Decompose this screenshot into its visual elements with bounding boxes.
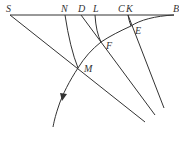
label-S: S [6, 3, 11, 14]
label-F: F [105, 40, 113, 51]
label-C: C [118, 3, 125, 14]
trajectory-curve [53, 15, 174, 127]
label-D: D [77, 3, 86, 14]
label-L: L [92, 3, 99, 14]
label-M: M [83, 63, 93, 74]
label-K: K [125, 3, 134, 14]
label-E: E [134, 25, 141, 36]
label-N: N [60, 3, 69, 14]
geometric-diagram: S N D L C K B E F M [0, 0, 179, 142]
label-B: B [173, 3, 179, 14]
line-K-through-E [128, 15, 164, 108]
